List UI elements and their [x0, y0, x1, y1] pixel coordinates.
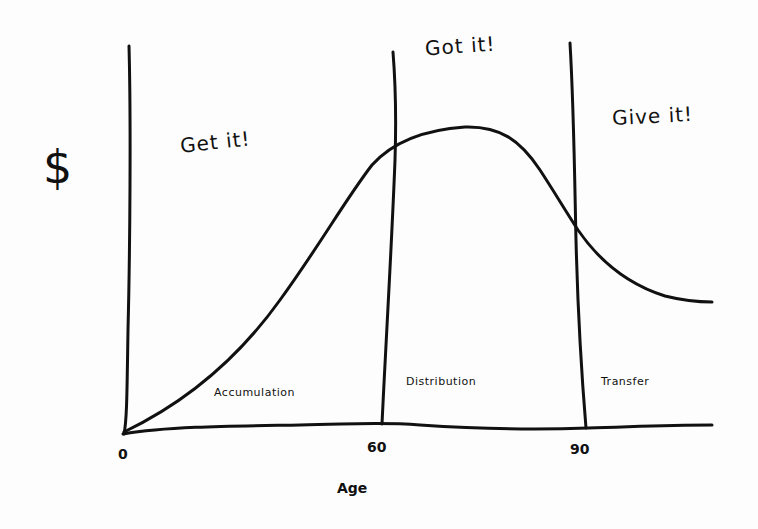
- y-axis-line: [124, 46, 130, 434]
- x-axis-label-age: Age: [337, 480, 367, 496]
- tick-label-0: 0: [118, 446, 128, 462]
- phase-name-transfer: Transfer: [601, 375, 649, 388]
- tick-label-60: 60: [367, 439, 386, 455]
- wealth-lifecycle-diagram: $ Get it! Got it! Give it! Accumulation …: [0, 0, 758, 529]
- phase-name-distribution: Distribution: [406, 375, 476, 388]
- heading-give-it: Give it!: [611, 102, 693, 130]
- tick-label-90: 90: [570, 441, 589, 457]
- heading-got-it: Got it!: [424, 32, 496, 61]
- y-axis-label-dollar: $: [43, 140, 72, 194]
- boundary-line-60: [382, 52, 396, 424]
- x-axis-line: [123, 423, 712, 434]
- phase-name-accumulation: Accumulation: [214, 386, 295, 399]
